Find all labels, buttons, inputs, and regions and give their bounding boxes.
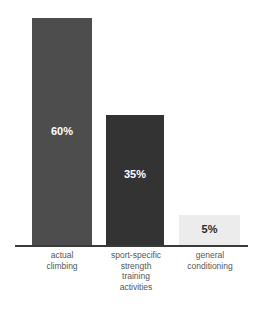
plot-area: 60% 35% 5%: [0, 0, 258, 246]
baseline-axis: [15, 245, 248, 247]
bar-value-label-sport-specific-strength-training-activities: 35%: [124, 169, 146, 180]
bar-chart: 60% 35% 5% actual climbing sport-specifi…: [0, 0, 258, 315]
bar-actual-climbing: 60%: [32, 18, 92, 246]
bar-sport-specific-strength-training-activities: 35%: [106, 115, 164, 246]
category-labels: actual climbing sport-specific strength …: [0, 250, 258, 315]
bar-value-label-actual-climbing: 60%: [51, 126, 73, 137]
category-label-general-conditioning: general conditioning: [162, 250, 258, 271]
bar-general-conditioning: 5%: [179, 215, 240, 246]
bar-value-label-general-conditioning: 5%: [202, 224, 218, 235]
